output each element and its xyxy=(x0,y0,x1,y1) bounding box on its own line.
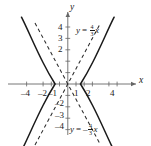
x-axis-label: x xyxy=(139,76,143,86)
x-tick-label-neg2: –2 xyxy=(38,89,47,98)
x-tick-label-2: 2 xyxy=(86,89,91,98)
eq-neg-equals: = xyxy=(76,125,81,134)
x-tick-label-1: 1 xyxy=(74,89,79,98)
x-tick-label-4: 4 xyxy=(110,89,115,98)
hyperbola-graph-figure: x y –4 –2 –1 1 2 4 4 3 2 –2 –3 –4 y = 4 … xyxy=(0,0,151,146)
y-tick-label-neg4: –4 xyxy=(55,122,64,131)
eq-neg-y: y xyxy=(70,125,74,134)
eq-pos-equals: = xyxy=(82,26,87,35)
x-tick-label-neg4: –4 xyxy=(21,89,30,98)
asymptote-negative-equation-label: y = – 4 3 x xyxy=(70,123,98,136)
eq-neg-fraction: 4 3 xyxy=(88,123,93,136)
y-tick-label-neg3: –3 xyxy=(55,111,64,120)
y-tick-label-2: 2 xyxy=(58,45,63,54)
eq-neg-denominator: 3 xyxy=(88,129,93,136)
eq-neg-variable: x xyxy=(94,125,98,134)
eq-pos-fraction: 4 3 xyxy=(90,24,95,37)
eq-pos-denominator: 3 xyxy=(90,30,95,37)
y-tick-label-3: 3 xyxy=(58,34,63,43)
asymptote-positive-equation-label: y = 4 3 x xyxy=(76,24,99,37)
x-axis xyxy=(8,82,136,87)
eq-pos-y: y xyxy=(76,26,80,35)
eq-pos-variable: x xyxy=(95,26,99,35)
x-tick-label-neg1: –1 xyxy=(48,89,57,98)
y-tick-label-4: 4 xyxy=(58,23,63,32)
y-axis xyxy=(65,12,70,135)
y-tick-label-neg2: –2 xyxy=(55,99,64,108)
eq-neg-sign: – xyxy=(83,125,88,134)
y-axis-label: y xyxy=(70,3,74,13)
